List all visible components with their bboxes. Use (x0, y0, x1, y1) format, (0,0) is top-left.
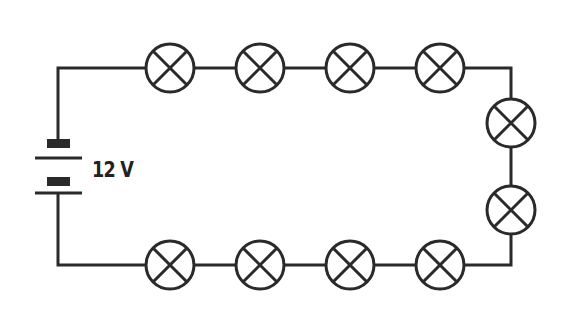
lamp-icon (487, 99, 535, 147)
lamp-icon (236, 241, 284, 289)
lamp-icon (416, 241, 464, 289)
lamp-icon (146, 44, 194, 92)
lamp-icon (416, 44, 464, 92)
wire-top-left (58, 68, 146, 142)
battery-icon (35, 139, 82, 193)
circuit-diagram (0, 0, 576, 311)
lamp-icon (487, 186, 535, 234)
lamp-icon (326, 44, 374, 92)
lamp-icon (236, 44, 284, 92)
lamp-icon (326, 241, 374, 289)
lamp-icon (146, 241, 194, 289)
voltage-label: 12 V (92, 157, 133, 182)
